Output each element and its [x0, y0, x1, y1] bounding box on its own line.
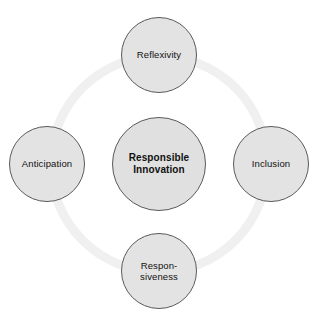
node-reflexivity: Reflexivity [121, 17, 197, 93]
node-anticipation: Anticipation [9, 126, 85, 202]
node-responsible-innovation-label: Responsible Innovation [125, 152, 194, 177]
node-responsible-innovation: Responsible Innovation [112, 117, 206, 211]
responsible-innovation-diagram: Anticipation Reflexivity Inclusion Respo… [0, 0, 317, 327]
node-reflexivity-label: Reflexivity [133, 49, 185, 61]
node-inclusion: Inclusion [233, 126, 309, 202]
node-anticipation-label: Anticipation [18, 158, 76, 170]
node-responsiveness: Respon- siveness [121, 233, 197, 309]
node-inclusion-label: Inclusion [248, 158, 294, 170]
node-responsiveness-label: Respon- siveness [136, 260, 182, 283]
